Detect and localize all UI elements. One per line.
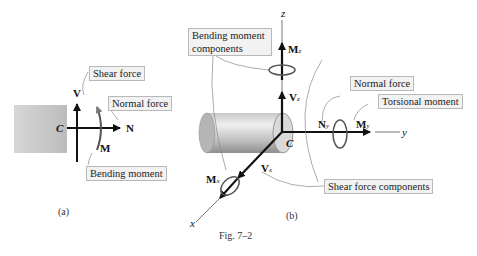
symbol-Ny: Ny (318, 119, 329, 132)
callout-shear-force: Shear force (89, 66, 145, 81)
symbol-V: V (73, 88, 81, 99)
symbol-My: My (356, 119, 370, 132)
axis-y: y (402, 127, 407, 138)
symbol-M: M (100, 143, 110, 154)
symbol-Mz: Mz (288, 44, 301, 57)
axis-z: z (281, 8, 285, 19)
callout-torsional-moment: Torsional moment (378, 94, 463, 109)
panel-a-label: (a) (58, 206, 69, 217)
symbol-Vz: Vz (289, 92, 300, 105)
My-circ (333, 120, 347, 148)
callout-bending-moment: Bending moment (86, 166, 167, 181)
symbol-Mx: Mx (206, 174, 220, 187)
axis-x: x (190, 218, 195, 229)
callout-shear-components: Shear force components (324, 179, 433, 194)
callout-bending-components: Bending moment components (188, 28, 272, 56)
callout-normal-force: Normal force (108, 96, 172, 111)
point-C-b: C (286, 138, 293, 149)
point-C-a: C (56, 123, 63, 134)
symbol-Vx: Vx (261, 163, 272, 176)
panel-b-label: (b) (286, 210, 298, 221)
figure-caption: Fig. 7–2 (219, 230, 252, 241)
symbol-N: N (126, 123, 134, 134)
callout-normal-force-b: Normal force (350, 76, 414, 91)
